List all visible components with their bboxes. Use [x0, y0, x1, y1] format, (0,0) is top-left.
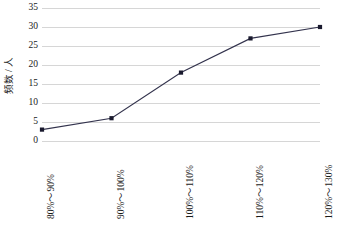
- data-point-marker: [109, 116, 113, 120]
- x-axis-tick-label-text: 110%～120%: [256, 165, 266, 219]
- y-axis-title-text: 频数 / 人: [5, 57, 15, 94]
- series-line: [42, 8, 320, 141]
- plot-area: [42, 8, 320, 141]
- data-point-marker: [179, 71, 183, 75]
- x-axis-tick-label-text: 90%～100%: [117, 169, 127, 219]
- y-axis-tick-label: 10: [18, 98, 38, 108]
- y-axis-tick-label: 15: [18, 79, 38, 89]
- data-point-marker: [40, 128, 44, 132]
- x-axis-tick-label-text: 80%～90%: [47, 174, 57, 219]
- y-axis-tick-label: 5: [18, 117, 38, 127]
- y-axis-tick-label: 25: [18, 41, 38, 51]
- line-chart: 频数 / 人 05101520253035 80%～90%90%～100%100…: [0, 0, 341, 226]
- y-axis-tick-label: 30: [18, 22, 38, 32]
- y-axis-tick-labels: 05101520253035: [18, 8, 38, 141]
- y-axis-tick-label: 0: [18, 136, 38, 146]
- y-axis-tick-label: 20: [18, 60, 38, 70]
- series-polyline: [42, 27, 320, 130]
- data-point-marker: [248, 36, 252, 40]
- data-point-marker: [318, 25, 322, 29]
- x-axis-tick-labels: 80%～90%90%～100%100%～110%110%～120%120%～13…: [42, 141, 320, 226]
- y-axis-title: 频数 / 人: [2, 44, 18, 108]
- y-axis-tick-label: 35: [18, 3, 38, 13]
- x-axis-tick-label-text: 100%～110%: [186, 165, 196, 219]
- x-axis-tick-label-text: 120%～130%: [325, 165, 335, 219]
